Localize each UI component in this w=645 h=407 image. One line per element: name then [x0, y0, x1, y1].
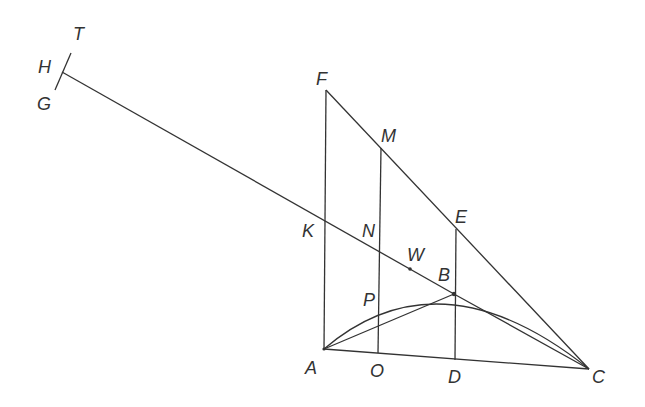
line-AC	[324, 349, 589, 369]
label-O: O	[370, 362, 384, 380]
label-F: F	[316, 70, 327, 88]
line-HB	[62, 72, 454, 294]
label-W: W	[407, 246, 424, 264]
label-C: C	[592, 368, 605, 386]
label-D: D	[448, 368, 461, 386]
line-TG	[55, 53, 71, 90]
label-B: B	[438, 266, 450, 284]
label-T: T	[73, 25, 84, 43]
point-W	[408, 267, 412, 271]
label-A: A	[305, 359, 317, 377]
label-G: G	[37, 95, 51, 113]
label-H: H	[38, 58, 51, 76]
label-P: P	[363, 291, 375, 309]
label-E: E	[455, 208, 467, 226]
label-M: M	[381, 127, 396, 145]
line-BC	[454, 294, 589, 369]
diagram-lines	[0, 0, 645, 407]
label-K: K	[302, 222, 314, 240]
point-A	[322, 347, 325, 350]
line-AB	[324, 294, 454, 349]
line-FA	[324, 90, 326, 349]
label-N: N	[362, 222, 375, 240]
point-B	[452, 292, 456, 296]
geometry-diagram: T H G F M E K N W B P A O D C	[0, 0, 645, 407]
